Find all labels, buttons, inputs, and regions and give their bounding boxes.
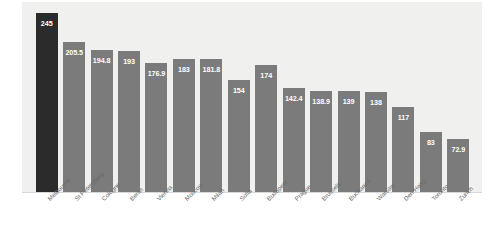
bar-value-label: 154 xyxy=(228,86,250,95)
bar-column: 154 xyxy=(228,0,250,193)
bar: 174 xyxy=(255,65,277,193)
bar: 138.9 xyxy=(310,91,332,193)
bar-value-label: 142.4 xyxy=(283,94,305,103)
bar-value-label: 83 xyxy=(420,138,442,147)
bar-column: 193 xyxy=(118,0,140,193)
bar-column: 245 xyxy=(36,0,58,193)
bar: 205.5 xyxy=(63,42,85,193)
bar-column: 183 xyxy=(173,0,195,193)
bar-value-label: 138 xyxy=(365,98,387,107)
bar-value-label: 139 xyxy=(338,97,360,106)
bar-column: 205.5 xyxy=(63,0,85,193)
bars-layer: 245205.5194.8193176.9183181.8154174142.4… xyxy=(0,0,498,193)
bar-column: 139 xyxy=(338,0,360,193)
bar: 139 xyxy=(338,91,360,193)
bar-column: 181.8 xyxy=(200,0,222,193)
bar-value-label: 181.8 xyxy=(200,65,222,74)
bar: 245 xyxy=(36,13,58,193)
bar-column: 174 xyxy=(255,0,277,193)
bar-value-label: 194.8 xyxy=(91,56,113,65)
bar: 117 xyxy=(392,107,414,193)
bar-column: 138.9 xyxy=(310,0,332,193)
bar-value-label: 72.9 xyxy=(447,145,469,154)
bar-value-label: 176.9 xyxy=(145,69,167,78)
bar-column: 142.4 xyxy=(283,0,305,193)
bar: 176.9 xyxy=(145,63,167,193)
bar-value-label: 245 xyxy=(36,19,58,28)
bar: 72.9 xyxy=(447,139,469,193)
bar: 181.8 xyxy=(200,59,222,193)
bar-column: 72.9 xyxy=(447,0,469,193)
bar-column: 117 xyxy=(392,0,414,193)
bar-value-label: 193 xyxy=(118,57,140,66)
bar-value-label: 183 xyxy=(173,65,195,74)
bar: 142.4 xyxy=(283,88,305,193)
bar-column: 138 xyxy=(365,0,387,193)
bar-value-label: 138.9 xyxy=(310,97,332,106)
bar-value-label: 174 xyxy=(255,71,277,80)
bar: 154 xyxy=(228,80,250,193)
bar: 193 xyxy=(118,51,140,193)
bar-value-label: 117 xyxy=(392,113,414,122)
bar-value-label: 205.5 xyxy=(63,48,85,57)
bar-column: 194.8 xyxy=(91,0,113,193)
bar: 183 xyxy=(173,59,195,193)
category-axis-labels: MelbourneSt PetersburgCologneBerlinVienn… xyxy=(0,193,498,246)
bar-column: 83 xyxy=(420,0,442,193)
bar-column: 176.9 xyxy=(145,0,167,193)
bar-chart: 245205.5194.8193176.9183181.8154174142.4… xyxy=(0,0,498,246)
